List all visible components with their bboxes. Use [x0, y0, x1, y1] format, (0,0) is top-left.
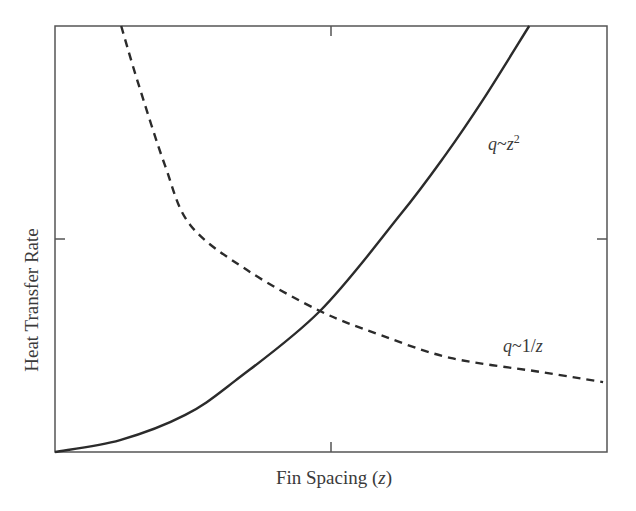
y-axis-label: Heat Transfer Rate	[21, 228, 43, 372]
plot-frame	[55, 26, 607, 452]
chart: Heat Transfer Rate Fin Spacing (z) q~z2 …	[0, 0, 636, 511]
x-axis-label-prefix: Fin Spacing (	[276, 467, 378, 488]
label-q: q	[488, 134, 497, 154]
curve-q-z-squared	[55, 26, 529, 452]
label-q-inverse-z: q~1/z	[503, 336, 543, 357]
label-tilde: ~	[497, 134, 507, 154]
x-axis-label-suffix: )	[386, 467, 392, 488]
curve-q-inverse-z	[121, 26, 603, 382]
label-q-z-squared: q~z2	[488, 132, 520, 155]
label-tilde: ~	[512, 336, 522, 356]
plot-area	[0, 0, 636, 511]
label-z: z	[536, 336, 543, 356]
x-axis-label: Fin Spacing (z)	[276, 467, 392, 489]
label-z: z	[507, 134, 514, 154]
x-axis-label-var: z	[378, 467, 385, 488]
label-q: q	[503, 336, 512, 356]
label-exponent: 2	[514, 132, 520, 146]
label-numerator: 1/	[522, 336, 536, 356]
